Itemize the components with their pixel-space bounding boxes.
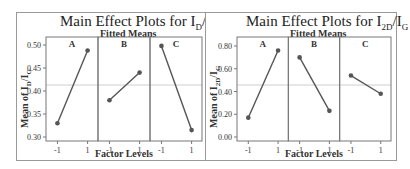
panel-b: B-11 xyxy=(288,37,339,155)
data-point xyxy=(349,73,354,78)
y-tick-label: 0.80 xyxy=(218,42,232,51)
panel-label: C xyxy=(362,39,369,49)
y-tick-label: 0.60 xyxy=(218,65,232,74)
data-point xyxy=(327,109,332,114)
data-point xyxy=(378,91,383,96)
effect-line xyxy=(300,57,330,110)
x-tick-label: 1 xyxy=(379,146,383,155)
data-point xyxy=(297,55,302,60)
y-tick-label: 0.20 xyxy=(218,110,232,119)
plot-area-i2d-ig: 0.000.200.400.600.80A-11B-11C-11 xyxy=(0,0,410,169)
x-tick-label: -1 xyxy=(348,146,355,155)
panel-c: C-11 xyxy=(340,37,391,155)
data-point xyxy=(246,115,251,120)
x-tick-label: 1 xyxy=(276,146,280,155)
data-point xyxy=(276,48,281,53)
y-tick-label: 0.40 xyxy=(218,88,232,97)
panel-label: A xyxy=(259,39,266,49)
x-tick-label: -1 xyxy=(245,146,252,155)
y-tick-label: 0.00 xyxy=(218,133,232,142)
panel-label: B xyxy=(311,39,317,49)
effect-line xyxy=(248,51,278,118)
x-tick-label: -1 xyxy=(296,146,303,155)
panel-a: A-11 xyxy=(237,37,288,155)
x-tick-label: 1 xyxy=(327,146,331,155)
